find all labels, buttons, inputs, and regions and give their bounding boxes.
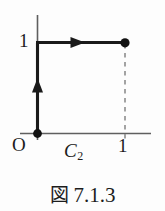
x-axis-name-subscript: 2 xyxy=(77,149,83,163)
y-axis-tick-label-one: 1 xyxy=(19,31,29,50)
arrowhead-up-icon xyxy=(32,78,43,93)
figure-container: 1 O 1 C2 図7.1.3 xyxy=(0,0,165,211)
x-axis-tick-label-one: 1 xyxy=(118,136,128,155)
figure-number: 7.1.3 xyxy=(74,183,116,207)
x-axis-name-base: C xyxy=(64,140,77,161)
x-axis-name-label: C2 xyxy=(64,141,83,162)
endpoint-point-marker xyxy=(120,38,129,47)
origin-label: O xyxy=(12,135,26,154)
figure-caption: 図7.1.3 xyxy=(0,180,165,208)
origin-point-marker xyxy=(33,129,42,138)
figure-mark-glyph: 図 xyxy=(50,185,69,206)
arrowhead-right-icon xyxy=(71,37,86,48)
